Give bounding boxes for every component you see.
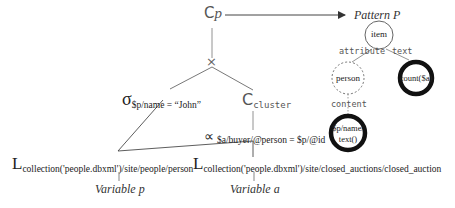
left-leaf-path: collection('people.dbxml')/site/people/p… bbox=[22, 164, 193, 174]
edge-label-attribute: attribute bbox=[339, 47, 385, 56]
pattern-name-label-line1: $p/name/ bbox=[330, 124, 366, 133]
selection-node: σ$p/name = “John” bbox=[122, 90, 201, 108]
pattern-name-label-line2: text() bbox=[330, 135, 366, 144]
left-leaf-node: Lcollection('people.dbxml')/site/people/… bbox=[12, 155, 193, 172]
root-node: Cp bbox=[204, 6, 222, 21]
variable-a-label: Variable a bbox=[230, 183, 280, 195]
edge-join-cluster bbox=[212, 67, 253, 90]
variable-p-label: Variable p bbox=[95, 183, 145, 195]
semijoin-condition: $a/buyer/@person = $p/@id bbox=[217, 135, 325, 145]
join-operator: × bbox=[206, 55, 217, 68]
edge-label-text: text bbox=[392, 47, 412, 56]
pattern-person-label: person bbox=[332, 74, 364, 83]
right-leaf-node: Lcollection('people.dbxml')/site/closed_… bbox=[193, 155, 441, 172]
semijoin-symbol: ∝ bbox=[204, 129, 214, 144]
pattern-node-name-text bbox=[331, 116, 365, 150]
semijoin-node: ∝$a/buyer/@person = $p/@id bbox=[204, 128, 325, 144]
selection-condition: $p/name = “John” bbox=[132, 100, 201, 110]
edge-label-content: content bbox=[331, 100, 367, 109]
pattern-count-label: count($a) bbox=[398, 74, 434, 83]
right-leaf-path: collection('people.dbxml')/site/closed_a… bbox=[203, 164, 441, 174]
edge-join-selection bbox=[170, 67, 212, 89]
sigma-symbol: σ bbox=[122, 89, 132, 109]
cluster-node: Ccluster bbox=[242, 92, 291, 108]
pattern-item-label: item bbox=[365, 30, 393, 39]
pattern-title: Pattern P bbox=[354, 9, 400, 21]
